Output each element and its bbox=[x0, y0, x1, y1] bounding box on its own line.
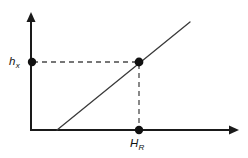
figure-canvas bbox=[0, 0, 248, 158]
linear-relation-line bbox=[57, 22, 190, 130]
y-axis-label-subscript: x bbox=[16, 61, 20, 70]
x-axis-value-dot bbox=[135, 126, 143, 134]
intersection-dot bbox=[135, 58, 144, 67]
y-axis-label-symbol: h bbox=[9, 55, 15, 67]
x-axis-label: HR bbox=[130, 138, 144, 150]
x-axis-label-subscript: R bbox=[139, 143, 145, 152]
x-axis-label-symbol: H bbox=[130, 137, 138, 149]
y-axis-label: hx bbox=[9, 56, 19, 68]
x-axis-arrow-icon bbox=[229, 126, 239, 135]
y-axis-arrow-icon bbox=[27, 12, 36, 22]
linear-relation-figure: hx HR bbox=[0, 0, 248, 158]
y-axis-value-dot bbox=[28, 58, 36, 66]
